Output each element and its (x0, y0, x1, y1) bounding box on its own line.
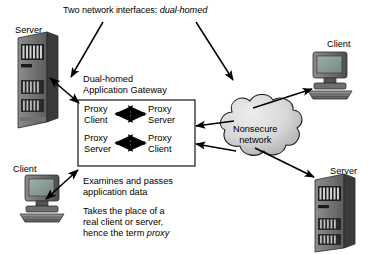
cloud-label-line1: Nonsecure (233, 124, 277, 134)
label-server-bottom-right: Server (330, 166, 357, 177)
device-client-top-right (308, 52, 352, 99)
arrow-network-to-server-br (255, 148, 314, 177)
proxy-row2-left-line1: Proxy (84, 133, 108, 143)
device-client-bottom-left (20, 175, 64, 222)
title-emphasis: dual-homed (160, 5, 208, 15)
diagram-title: Two network interfaces: dual-homed (63, 5, 207, 16)
arrow-title-to-gateway (71, 22, 103, 77)
proxy-row1-left-line1: Proxy (84, 104, 108, 114)
cloud-label-line2: network (239, 135, 271, 145)
device-server-bottom-right (315, 174, 355, 252)
proxy-row1-right: ProxyServer (148, 104, 175, 126)
proxy-row1-left-line2: Client (84, 115, 108, 125)
diagram-graphics-layer (0, 0, 370, 254)
gateway-caption-line2: Application Gateway (83, 85, 167, 95)
label-server-top-left: Server (15, 25, 42, 36)
proxy-row2-right-line2: Client (148, 144, 172, 154)
note2-line3-emphasis: proxy (147, 228, 169, 238)
proxy-row1-left: ProxyClient (84, 104, 108, 126)
proxy-row2-left-line2: Server (84, 144, 111, 154)
note1-line1: Examines and passes (83, 176, 173, 186)
gateway-caption-line1: Dual-homed (83, 74, 133, 84)
proxy-row2-left: ProxyServer (84, 133, 111, 155)
note2-line1: Takes the place of a (83, 206, 165, 216)
note1-line2: application data (83, 187, 147, 197)
gateway-caption: Dual-homedApplication Gateway (83, 74, 167, 96)
network-diagram: Two network interfaces: dual-homed Serve… (0, 0, 370, 254)
note-takes-place-of: Takes the place of areal client or serve… (83, 206, 169, 239)
cloud-label: Nonsecurenetwork (233, 124, 277, 146)
note-examines-passes: Examines and passesapplication data (83, 176, 173, 198)
note2-line2: real client or server, (83, 217, 163, 227)
label-client-top-right: Client (327, 39, 351, 50)
label-client-bottom-left: Client (13, 164, 37, 175)
note2-line3-prefix: hence the term (83, 228, 147, 238)
proxy-row2-right-line1: Proxy (148, 133, 172, 143)
title-prefix: Two network interfaces: (63, 5, 160, 15)
proxy-row1-right-line1: Proxy (148, 104, 172, 114)
proxy-row2-right: ProxyClient (148, 133, 172, 155)
proxy-row1-right-line2: Server (148, 115, 175, 125)
arrow-title-to-network (196, 22, 233, 80)
